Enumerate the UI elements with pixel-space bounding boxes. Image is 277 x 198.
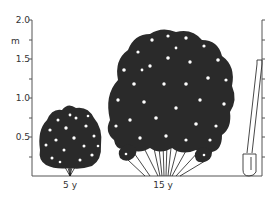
figure-drawing (0, 0, 277, 198)
y-tick-label: 1.5 (16, 54, 30, 64)
right-axis (262, 20, 265, 176)
spade-illustration (243, 60, 262, 176)
shrub-illustration (39, 105, 101, 176)
growth-figure: m 2.0 1.5 1.0 0.5 5 y 15 y (0, 0, 277, 198)
y-tick-label: 1.0 (16, 93, 30, 103)
shrub-age-label: 5 y (63, 180, 77, 190)
bamboo-age-label: 15 y (153, 180, 173, 190)
y-tick-label: 2.0 (16, 15, 30, 25)
bamboo-illustration (108, 29, 235, 176)
y-axis-unit-label: m (11, 36, 20, 46)
y-tick-label: 0.5 (16, 132, 30, 142)
